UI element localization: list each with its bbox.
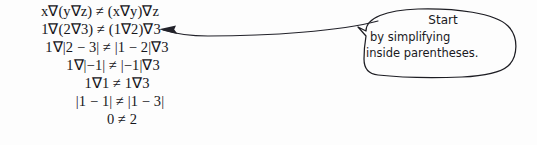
- equation-line: |1 − 1| ≠ |1 − 3|: [0, 92, 200, 110]
- left-arrow-icon: [150, 14, 380, 46]
- equation-line: 1∇1 ≠ 1∇3: [0, 74, 200, 92]
- equation-line: 1∇|−1| ≠ |−1|∇3: [0, 56, 200, 74]
- equation-line: 0 ≠ 2: [0, 110, 200, 128]
- worksheet-page: x∇(y∇z) ≠ (x∇y)∇z 1∇(2∇3) ≠ (1∇2)∇3 1∇|2…: [0, 0, 537, 145]
- speech-bubble-icon: [352, 4, 527, 80]
